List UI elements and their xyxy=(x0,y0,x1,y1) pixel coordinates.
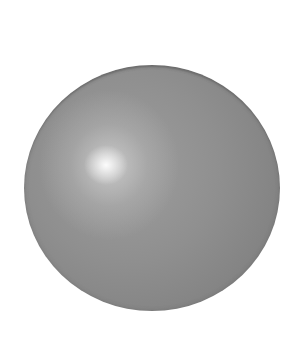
gray-sphere xyxy=(24,65,280,311)
sphere-rim-shading xyxy=(24,65,280,311)
image-canvas xyxy=(0,0,306,337)
